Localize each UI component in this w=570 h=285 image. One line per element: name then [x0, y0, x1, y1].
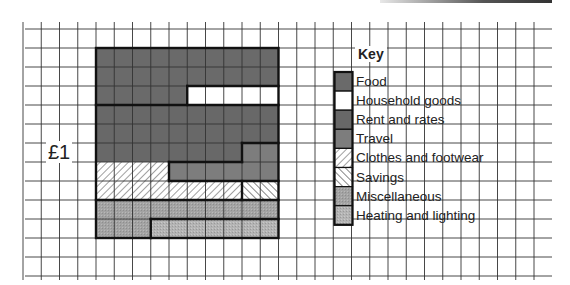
- key-swatch: [335, 148, 353, 167]
- key-label-rent-and-rates: Rent and rates: [356, 112, 445, 128]
- chart-canvas: [0, 0, 570, 285]
- key-label-clothes-and-footwear: Clothes and footwear: [356, 150, 484, 166]
- key-title: Key: [355, 46, 387, 62]
- key-label-miscellaneous: Miscellaneous: [356, 189, 442, 205]
- key-label-household-goods: Household goods: [356, 93, 461, 109]
- key-label-savings: Savings: [356, 170, 404, 186]
- key-label-food: Food: [356, 74, 387, 90]
- region-heating-and-lighting: [151, 219, 279, 238]
- total-value-label: £1: [46, 141, 72, 163]
- key-swatch: [335, 91, 353, 110]
- key-swatch: [335, 72, 353, 91]
- key-swatch: [335, 110, 353, 129]
- key-swatch: [335, 187, 353, 206]
- key-swatches: [335, 72, 353, 225]
- key-swatch: [335, 168, 353, 187]
- key-label-travel: Travel: [356, 131, 393, 147]
- hundred-square-chart: £1 Key FoodHousehold goodsRent and rates…: [0, 0, 570, 285]
- key-swatch: [335, 129, 353, 148]
- region-household-goods: [187, 86, 278, 105]
- key-swatch: [335, 206, 353, 225]
- key-label-heating-and-lighting: Heating and lighting: [356, 208, 475, 224]
